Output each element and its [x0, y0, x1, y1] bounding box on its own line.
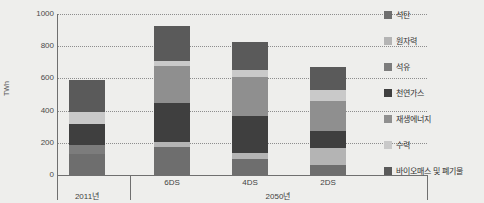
bar-segment — [232, 116, 268, 153]
legend-item-1[interactable]: 원자력 — [384, 36, 417, 46]
legend-swatch-nuclear-icon — [384, 37, 392, 45]
bar-segment — [154, 26, 190, 61]
bar-segment — [69, 124, 105, 145]
axis-start-tick — [57, 175, 58, 200]
legend-item-6[interactable]: 바이오매스 및 폐기물 — [384, 166, 463, 176]
legend-swatch-renewable-icon — [384, 115, 392, 123]
bar-segment — [310, 90, 346, 100]
bar-segment — [69, 154, 105, 175]
axis-end-tick — [427, 175, 428, 200]
bar-segment — [310, 148, 346, 164]
legend-label: 천연가스 — [396, 89, 424, 98]
bar-segment — [154, 103, 190, 142]
bar-2011년 — [69, 14, 105, 175]
y-axis-label: TWh — [3, 81, 10, 96]
x-axis-label-4DS: 4DS — [210, 178, 290, 187]
y-tick-label-600: 600 — [20, 74, 54, 82]
bar-2DS — [310, 14, 346, 175]
chart-root: TWh 02004006008001000 2011년6DS4DS2DS2050… — [0, 0, 484, 203]
bar-segment — [232, 70, 268, 77]
y-axis-line — [57, 14, 58, 175]
legend-label: 석유 — [396, 63, 410, 72]
legend-item-4[interactable]: 재생에너지 — [384, 114, 431, 124]
legend-item-3[interactable]: 천연가스 — [384, 88, 424, 98]
legend-swatch-oil-icon — [384, 63, 392, 71]
bar-segment — [154, 142, 190, 147]
group-separator — [130, 175, 131, 200]
x-axis-label-6DS: 6DS — [132, 178, 212, 187]
bar-4DS — [232, 14, 268, 175]
legend-label: 수력 — [396, 141, 410, 150]
y-tick-label-0: 0 — [20, 171, 54, 179]
bar-segment — [154, 66, 190, 103]
y-tick-label-400: 400 — [20, 107, 54, 115]
stacked-bar-chart: TWh 02004006008001000 2011년6DS4DS2DS2050… — [0, 0, 484, 203]
legend-label: 바이오매스 및 폐기물 — [396, 167, 463, 176]
bar-segment — [310, 67, 346, 90]
legend-swatch-coal-icon — [384, 11, 392, 19]
x-axis-label-2DS: 2DS — [288, 178, 368, 187]
bar-segment — [232, 42, 268, 69]
legend-label: 석탄 — [396, 11, 410, 20]
y-tick-label-200: 200 — [20, 139, 54, 147]
bar-segment — [154, 61, 190, 67]
x-axis-label-2011년: 2011년 — [47, 190, 127, 201]
legend-swatch-biomass-waste-icon — [384, 167, 392, 175]
legend-label: 재생에너지 — [396, 115, 431, 124]
bar-segment — [232, 153, 268, 159]
bar-segment — [232, 77, 268, 116]
legend-item-2[interactable]: 석유 — [384, 62, 410, 72]
legend-swatch-natural-gas-icon — [384, 89, 392, 97]
bar-segment — [310, 101, 346, 131]
bar-segment — [310, 131, 346, 149]
y-tick-label-1000: 1000 — [20, 10, 54, 18]
legend-swatch-hydro-icon — [384, 141, 392, 149]
bar-segment — [232, 159, 268, 175]
legend-item-0[interactable]: 석탄 — [384, 10, 410, 20]
legend-label: 원자력 — [396, 37, 417, 46]
bar-segment — [310, 165, 346, 175]
legend-item-5[interactable]: 수력 — [384, 140, 410, 150]
x-axis-line — [57, 175, 427, 176]
bar-segment — [69, 145, 105, 154]
bar-segment — [69, 112, 105, 124]
bar-segment — [154, 147, 190, 175]
bar-6DS — [154, 14, 190, 175]
bar-segment — [69, 80, 105, 112]
y-tick-label-800: 800 — [20, 42, 54, 50]
x-axis-group-label-2050: 2050년 — [238, 190, 318, 201]
